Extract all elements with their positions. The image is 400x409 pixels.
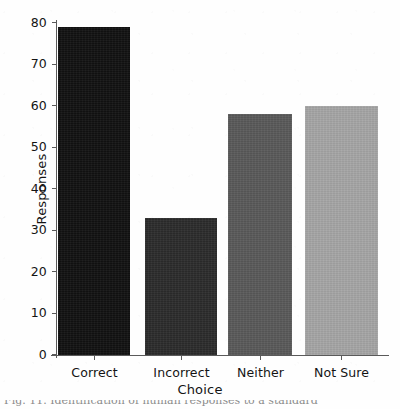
x-tick-neither: Neither	[260, 355, 261, 360]
y-tick-label-80: 80	[31, 16, 47, 29]
x-tick-not-sure: Not Sure	[341, 355, 342, 360]
y-axis-spine	[56, 20, 57, 358]
cropped-caption-text: Fig. 11. Identification of human respons…	[4, 400, 334, 407]
x-tick-label-correct: Correct	[71, 367, 117, 380]
y-tick-label-50: 50	[31, 141, 47, 154]
bar-neither[interactable]	[228, 114, 292, 355]
bar-incorrect[interactable]	[145, 218, 217, 355]
x-tick-label-incorrect: Incorrect	[153, 367, 209, 380]
x-axis-title: Choice	[0, 382, 400, 397]
x-tick-label-neither: Neither	[237, 367, 284, 380]
y-tick-0: 0	[52, 354, 57, 355]
y-tick-label-70: 70	[31, 58, 47, 71]
y-tick-60: 60	[52, 105, 57, 106]
x-tick-incorrect: Incorrect	[181, 355, 182, 360]
cropped-figure-caption: Fig. 11. Identification of human respons…	[4, 400, 334, 409]
y-tick-80: 80	[52, 22, 57, 23]
y-tick-40: 40	[52, 188, 57, 189]
y-tick-label-0: 0	[39, 348, 47, 361]
y-tick-50: 50	[52, 147, 57, 148]
x-tick-correct: Correct	[94, 355, 95, 360]
plot-area: 0 10 20 30 40 50 60 70 80	[57, 23, 382, 355]
x-axis-spine	[51, 355, 389, 356]
x-tick-label-not-sure: Not Sure	[314, 367, 369, 380]
y-tick-label-20: 20	[31, 265, 47, 278]
bar-correct[interactable]	[58, 27, 130, 355]
y-tick-label-60: 60	[31, 99, 47, 112]
y-axis-title: Responses	[34, 153, 49, 224]
y-tick-10: 10	[52, 313, 57, 314]
y-tick-20: 20	[52, 271, 57, 272]
y-tick-30: 30	[52, 230, 57, 231]
y-tick-label-10: 10	[31, 307, 47, 320]
y-tick-70: 70	[52, 64, 57, 65]
bar-not-sure[interactable]	[305, 106, 378, 355]
y-tick-label-30: 30	[31, 224, 47, 237]
bar-chart-figure: 0 10 20 30 40 50 60 70 80	[0, 0, 400, 409]
